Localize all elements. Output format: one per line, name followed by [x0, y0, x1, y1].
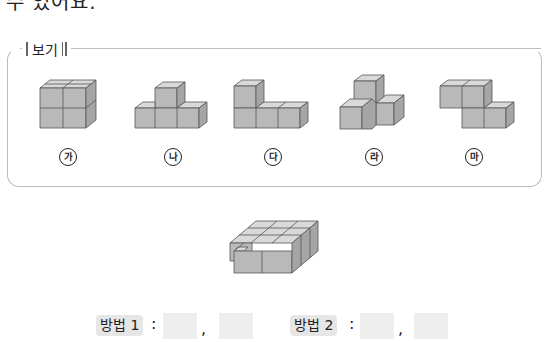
method2-label: 방법 2: [290, 315, 337, 336]
legend-bracket-right: [62, 42, 64, 56]
legend-label: 보기: [28, 39, 62, 59]
cube-figure-ga: [38, 78, 98, 130]
question-text-fragment: 수 있어요.: [6, 0, 97, 15]
cube-figure-ma: [438, 78, 518, 130]
method1-colon: :: [151, 314, 156, 333]
method1-label: 방법 1: [96, 315, 143, 336]
example-box-topline-right: [70, 48, 541, 49]
method1-answer-2[interactable]: [219, 313, 253, 339]
label-ra: 라: [365, 148, 383, 166]
method1-answer-1[interactable]: [163, 313, 197, 339]
answer-row: 방법 1 : , 방법 2 : ,: [0, 313, 549, 339]
method2-colon: :: [349, 314, 354, 333]
label-da: 다: [264, 148, 282, 166]
method2-answer-1[interactable]: [360, 313, 394, 339]
label-ma: 마: [465, 148, 483, 166]
legend-bracket-right-2: [65, 42, 67, 56]
method2-comma: ,: [398, 319, 403, 338]
cube-figure-ra: [338, 73, 408, 131]
method1-comma: ,: [201, 319, 206, 338]
method2-answer-2[interactable]: [414, 313, 448, 339]
target-cube-figure: [226, 217, 322, 277]
cube-figure-na: [133, 80, 213, 130]
example-legend: 보기: [22, 40, 71, 58]
cube-figure-da: [232, 78, 312, 130]
label-na: 나: [164, 148, 182, 166]
label-ga: 가: [59, 148, 77, 166]
